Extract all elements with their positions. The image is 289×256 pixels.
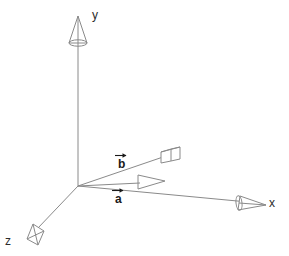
z-axis-line: [38, 186, 78, 228]
vector-b-group: [78, 147, 180, 186]
vector-b-label: b: [118, 157, 125, 171]
z-axis-label: z: [5, 234, 11, 248]
y-axis-group: [69, 16, 87, 186]
y-axis-arrowhead-icon: [69, 16, 87, 46]
z-axis-group: [27, 186, 78, 245]
vector-a-arrowhead-icon: [138, 175, 165, 189]
vector-a-line: [78, 183, 140, 186]
vector-diagram-canvas: y x z: [0, 0, 289, 256]
x-axis-label: x: [269, 196, 275, 210]
vector-a-label: a: [115, 192, 122, 206]
vector-b-arrowhead-icon: [161, 147, 180, 163]
x-axis-line: [78, 186, 248, 202]
y-axis-label: y: [92, 8, 98, 22]
z-axis-arrowhead-icon: [27, 224, 44, 245]
vector-a-label-group: a: [112, 188, 124, 206]
vector-b-label-group: b: [115, 153, 127, 171]
vector-diagram-svg: y x z: [0, 0, 289, 256]
x-axis-arrowhead-icon: [235, 195, 266, 210]
x-axis-group: [78, 186, 266, 211]
